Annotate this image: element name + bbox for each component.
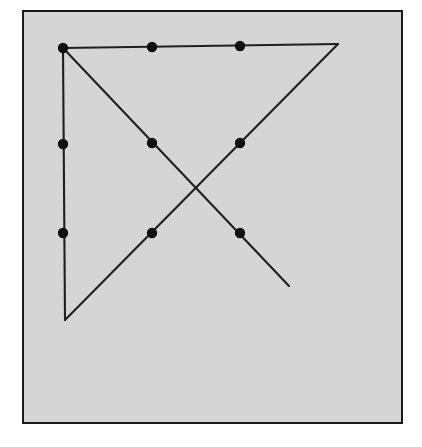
marker-top-edge-1 — [147, 42, 157, 52]
marker-top-left-corner — [58, 43, 68, 53]
marker-ascending-1 — [235, 138, 245, 148]
marker-descending-1 — [147, 138, 157, 148]
marker-left-edge-2 — [58, 228, 68, 238]
gray-panel — [23, 11, 402, 423]
marker-left-edge-1 — [58, 139, 68, 149]
marker-top-edge-2 — [235, 41, 245, 51]
geometric-figure-canvas — [0, 0, 422, 447]
marker-ascending-2 — [147, 228, 157, 238]
marker-descending-2 — [235, 228, 245, 238]
